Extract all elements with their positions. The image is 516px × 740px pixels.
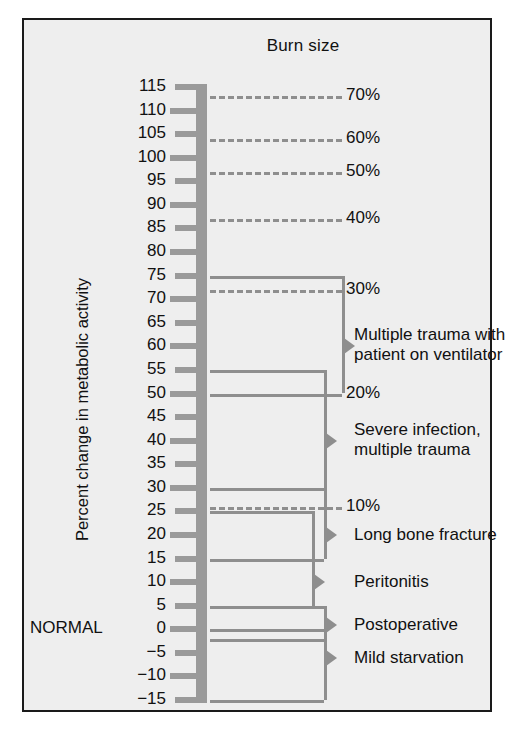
condition-label-line: Postoperative [354, 615, 458, 635]
axis-tick-label: 105 [104, 123, 166, 143]
bracket-arm-top [210, 606, 324, 609]
condition-label-line: multiple trauma [354, 440, 481, 460]
bracket-arm-bottom [210, 394, 342, 397]
axis-tick-label: 15 [104, 548, 166, 568]
axis-tick [175, 414, 196, 420]
axis-tick [170, 296, 196, 302]
axis-tick-label: 30 [104, 477, 166, 497]
axis-tick-label: 40 [104, 430, 166, 450]
axis-tick [175, 603, 196, 609]
axis-tick-label: 85 [104, 217, 166, 237]
bracket-arrow-icon [314, 574, 325, 590]
condition-label: Mild starvation [354, 648, 464, 668]
axis-tick [175, 273, 196, 279]
axis-tick [175, 320, 196, 326]
axis-tick [170, 108, 196, 114]
axis-tick-label: 80 [104, 241, 166, 261]
burn-size-line [210, 507, 342, 510]
condition-label-line: Long bone fracture [354, 525, 497, 545]
axis-tick-label: 115 [104, 76, 166, 96]
burn-size-line [210, 96, 342, 99]
axis-tick-label: 95 [104, 170, 166, 190]
bracket-arrow-icon [326, 433, 337, 449]
axis-tick-label: −10 [104, 665, 166, 685]
axis-tick [175, 131, 196, 137]
condition-label-line: Multiple trauma with [354, 325, 505, 345]
axis-tick-label: 5 [104, 595, 166, 615]
axis-tick-label: 25 [104, 500, 166, 520]
burn-size-label: 30% [346, 279, 380, 299]
axis-tick-label: 20 [104, 524, 166, 544]
axis-tick [170, 673, 196, 679]
burn-size-label: 70% [346, 85, 380, 105]
condition-label-line: Mild starvation [354, 648, 464, 668]
axis-tick-label: 10 [104, 571, 166, 591]
axis-tick [175, 461, 196, 467]
bracket-arrow-icon [326, 617, 337, 633]
axis-tick-label: 100 [104, 147, 166, 167]
axis-tick [175, 556, 196, 562]
axis-tick [175, 650, 196, 656]
axis-tick [170, 438, 196, 444]
condition-label: Multiple trauma withpatient on ventilato… [354, 325, 505, 365]
axis-tick [170, 343, 196, 349]
axis-tick [175, 367, 196, 373]
axis-tick [170, 391, 196, 397]
axis-tick [170, 532, 196, 538]
axis-tick [170, 155, 196, 161]
axis-tick-label: 75 [104, 265, 166, 285]
condition-label-line: patient on ventilator [354, 345, 505, 365]
burn-size-label: 10% [346, 496, 380, 516]
bracket-connector [312, 511, 315, 605]
normal-marker-label: NORMAL [30, 618, 140, 638]
burn-size-line [210, 172, 342, 175]
axis-tick-label: 60 [104, 335, 166, 355]
burn-size-line [210, 139, 342, 142]
axis-tick [175, 178, 196, 184]
bracket-arm-bottom [210, 700, 324, 703]
plot-stage: 1151101051009590858075706560555045403530… [24, 20, 494, 710]
bracket-connector [324, 370, 327, 488]
axis-tick [170, 485, 196, 491]
bracket-arm-top [210, 629, 324, 632]
axis-tick [170, 579, 196, 585]
axis-tick-label: −15 [104, 689, 166, 709]
burn-size-label: 60% [346, 128, 380, 148]
condition-label-line: Severe infection, [354, 420, 481, 440]
bracket-arm-top [210, 488, 324, 491]
bracket-connector [342, 276, 345, 394]
bracket-connector [324, 488, 327, 559]
axis-tick [175, 84, 196, 90]
bracket-arm-bottom [210, 639, 324, 642]
axis-tick-label: 45 [104, 406, 166, 426]
burn-size-line [210, 290, 342, 293]
burn-size-label: 20% [346, 383, 380, 403]
bracket-arm-top [210, 511, 312, 514]
burn-size-label: 50% [346, 161, 380, 181]
axis-tick-label: 50 [104, 383, 166, 403]
bracket-arm-top [210, 276, 342, 279]
bracket-arm-top [210, 370, 324, 373]
axis-tick [175, 697, 196, 703]
condition-label: Postoperative [354, 615, 458, 635]
bracket-arrow-icon [326, 527, 337, 543]
axis-tick-label: 110 [104, 100, 166, 120]
figure-page: Burn size Percent change in metabolic ac… [0, 0, 516, 740]
figure-frame: Burn size Percent change in metabolic ac… [22, 18, 492, 712]
axis-tick [175, 225, 196, 231]
condition-label: Peritonitis [354, 572, 429, 592]
axis-spine [196, 84, 207, 703]
axis-tick [170, 202, 196, 208]
axis-tick [170, 626, 196, 632]
axis-tick-label: 55 [104, 359, 166, 379]
condition-label: Severe infection,multiple trauma [354, 420, 481, 460]
bracket-arm-bottom [210, 559, 324, 562]
axis-tick-label: 65 [104, 312, 166, 332]
burn-size-label: 40% [346, 208, 380, 228]
axis-tick-label: 35 [104, 453, 166, 473]
condition-label: Long bone fracture [354, 525, 497, 545]
axis-tick-label: 90 [104, 194, 166, 214]
condition-label-line: Peritonitis [354, 572, 429, 592]
burn-size-line [210, 219, 342, 222]
axis-tick-label: −5 [104, 642, 166, 662]
